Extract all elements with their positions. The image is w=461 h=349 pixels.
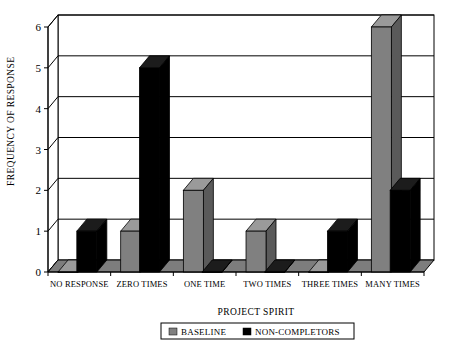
x-axis-title: PROJECT SPIRIT xyxy=(218,307,295,317)
x-category-label: ONE TIME xyxy=(184,279,225,289)
legend: BASELINE NON-COMPLETORS xyxy=(161,323,354,339)
bar-non-completors-0 xyxy=(77,219,107,272)
y-axis-title: FREQUENCY OF RESPONSE xyxy=(6,57,16,186)
bar-non-completors-5 xyxy=(390,178,420,272)
x-category-label: MANY TIMES xyxy=(365,279,420,289)
y-tick-label: 4 xyxy=(36,103,42,115)
bar-chart-3d: 0123456 NO RESPONSEZERO TIMESONE TIMETWO… xyxy=(0,0,461,349)
chart-container: 0123456 NO RESPONSEZERO TIMESONE TIMETWO… xyxy=(0,0,461,349)
legend-swatch-baseline xyxy=(169,328,177,335)
bar-non-completors-4 xyxy=(327,219,357,272)
y-tick-label: 0 xyxy=(36,266,42,278)
x-axis-ticks: NO RESPONSEZERO TIMESONE TIMETWO TIMESTH… xyxy=(48,272,424,289)
y-tick-label: 6 xyxy=(36,21,42,33)
legend-label-noncompletors: NON-COMPLETORS xyxy=(255,327,340,337)
bar-baseline-2 xyxy=(183,178,213,272)
x-category-label: TWO TIMES xyxy=(243,279,291,289)
y-tick-label: 3 xyxy=(36,144,42,156)
y-axis-ticks: 0123456 xyxy=(36,21,49,278)
x-category-label: NO RESPONSE xyxy=(50,279,109,289)
y-tick-label: 2 xyxy=(36,184,42,196)
y-tick-label: 1 xyxy=(36,225,42,237)
x-category-label: ZERO TIMES xyxy=(116,279,167,289)
x-category-label: THREE TIMES xyxy=(302,279,359,289)
bar-non-completors-1 xyxy=(139,56,169,272)
legend-swatch-noncompletors xyxy=(243,328,251,335)
legend-label-baseline: BASELINE xyxy=(181,327,226,337)
y-tick-label: 5 xyxy=(36,62,42,74)
